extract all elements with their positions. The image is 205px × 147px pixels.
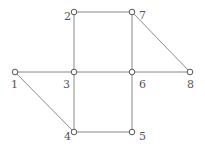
graph-canvas: 12345678 <box>0 0 205 147</box>
node-2 <box>71 9 77 15</box>
edges-group <box>15 12 190 132</box>
node-label-2: 2 <box>64 10 71 23</box>
node-label-6: 6 <box>139 78 146 91</box>
node-6 <box>129 69 135 75</box>
node-7 <box>129 9 135 15</box>
node-4 <box>71 129 77 135</box>
node-3 <box>71 69 77 75</box>
node-label-5: 5 <box>139 130 146 143</box>
node-label-3: 3 <box>63 78 70 91</box>
node-8 <box>187 69 193 75</box>
node-label-4: 4 <box>64 130 71 143</box>
node-label-7: 7 <box>139 9 146 22</box>
labels-group: 12345678 <box>11 9 194 143</box>
node-label-1: 1 <box>11 78 18 91</box>
node-1 <box>12 69 18 75</box>
node-5 <box>129 129 135 135</box>
node-label-8: 8 <box>187 78 194 91</box>
